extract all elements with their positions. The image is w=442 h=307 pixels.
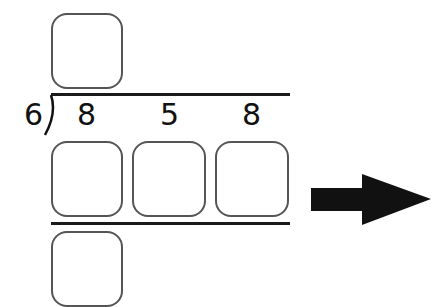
subtraction-line bbox=[51, 222, 290, 225]
division-bracket bbox=[41, 93, 57, 137]
quotient-answer-box[interactable] bbox=[51, 13, 123, 89]
product-box-1[interactable] bbox=[51, 141, 123, 217]
remainder-box[interactable] bbox=[51, 231, 123, 307]
dividend-digit-1: 8 bbox=[77, 100, 96, 130]
right-arrow-icon[interactable] bbox=[310, 172, 434, 228]
dividend-digit-2: 5 bbox=[160, 100, 179, 130]
dividend-digit-3: 8 bbox=[242, 100, 261, 130]
product-box-2[interactable] bbox=[132, 141, 206, 217]
product-box-3[interactable] bbox=[215, 141, 289, 217]
division-bar bbox=[51, 93, 290, 96]
